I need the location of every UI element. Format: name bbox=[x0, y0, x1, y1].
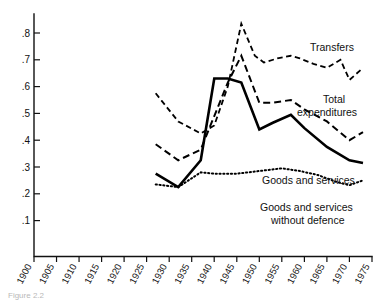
y-tick-label: .8 bbox=[22, 28, 31, 39]
figure-root: .8 .7 .6 .5 .4 .3 .2 .1 bbox=[0, 0, 379, 301]
x-tick-label: 1975 bbox=[352, 262, 372, 286]
label-goods-and-services-without-defence-line1: Goods and services bbox=[260, 201, 353, 213]
x-tick-label: 1960 bbox=[285, 262, 305, 286]
figure-caption-text: Figure 2.2 bbox=[8, 291, 45, 300]
x-axis-tick-labels: 1900 1905 1910 1915 1920 1925 1930 1935 … bbox=[14, 262, 372, 286]
label-transfers: Transfers bbox=[310, 41, 354, 53]
line-chart: .8 .7 .6 .5 .4 .3 .2 .1 bbox=[0, 0, 379, 301]
x-tick-label: 1950 bbox=[239, 262, 259, 286]
label-expenditures: expenditures bbox=[297, 106, 357, 118]
y-tick-label: .6 bbox=[22, 81, 31, 92]
y-tick-label: .3 bbox=[22, 162, 31, 173]
x-axis-ticks bbox=[34, 257, 372, 263]
x-tick-label: 1940 bbox=[194, 262, 214, 286]
y-tick-label: .1 bbox=[22, 215, 31, 226]
label-goods-and-services-without-defence-line2: without defence bbox=[270, 214, 345, 226]
x-tick-label: 1935 bbox=[172, 262, 192, 286]
x-tick-label: 1900 bbox=[14, 262, 34, 286]
figure-caption: Figure 2.2 bbox=[8, 291, 45, 300]
x-tick-label: 1945 bbox=[217, 262, 237, 286]
y-axis-ticks bbox=[34, 33, 40, 221]
x-tick-label: 1955 bbox=[262, 262, 282, 286]
x-tick-label: 1925 bbox=[127, 262, 147, 286]
y-tick-label: .4 bbox=[22, 135, 31, 146]
x-tick-label: 1970 bbox=[330, 262, 350, 286]
x-tick-label: 1965 bbox=[307, 262, 327, 286]
x-tick-label: 1915 bbox=[82, 262, 102, 286]
x-tick-label: 1910 bbox=[59, 262, 79, 286]
x-tick-label: 1930 bbox=[149, 262, 169, 286]
y-axis-tick-labels: .8 .7 .6 .5 .4 .3 .2 .1 bbox=[22, 28, 31, 227]
x-tick-label: 1905 bbox=[37, 262, 57, 286]
y-tick-label: .7 bbox=[22, 54, 31, 65]
y-tick-label: .2 bbox=[22, 188, 31, 199]
y-tick-label: .5 bbox=[22, 108, 31, 119]
x-tick-label: 1920 bbox=[104, 262, 124, 286]
label-total: Total bbox=[323, 93, 345, 105]
label-goods-and-services: Goods and services bbox=[262, 174, 355, 186]
